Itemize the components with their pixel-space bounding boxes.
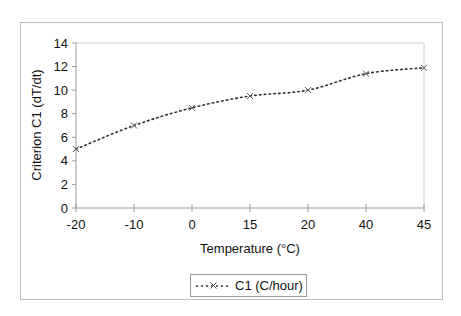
y-tick-label: 2: [61, 177, 68, 192]
x-tick-label: 0: [188, 217, 195, 232]
y-tick-label: 14: [54, 36, 68, 51]
x-marker-icon: [131, 123, 137, 129]
plot-area: [76, 43, 424, 208]
x-tick-label: 20: [301, 217, 315, 232]
legend-label: C1 (C/hour): [235, 278, 303, 293]
y-axis: 02468101214: [54, 36, 76, 216]
x-axis-title: Temperature (°C): [200, 241, 300, 256]
x-tick-label: -20: [67, 217, 86, 232]
x-tick-label: 45: [417, 217, 431, 232]
y-tick-label: 12: [54, 59, 68, 74]
legend-line-marker-icon: [191, 275, 235, 296]
line-chart: 02468101214 -20-10015204045 Temperature …: [0, 0, 461, 316]
x-marker-icon: [305, 87, 311, 93]
y-tick-label: 8: [61, 106, 68, 121]
y-tick-label: 0: [61, 201, 68, 216]
y-axis-title: Criterion C1 (dT/dt): [29, 69, 44, 180]
y-tick-label: 6: [61, 130, 68, 145]
series-c1: [73, 65, 427, 152]
legend: C1 (C/hour): [190, 274, 307, 297]
x-axis: -20-10015204045: [67, 204, 432, 232]
y-tick-label: 4: [61, 153, 68, 168]
x-tick-label: 15: [243, 217, 257, 232]
x-tick-label: 40: [359, 217, 373, 232]
x-tick-label: -10: [125, 217, 144, 232]
y-tick-label: 10: [54, 83, 68, 98]
